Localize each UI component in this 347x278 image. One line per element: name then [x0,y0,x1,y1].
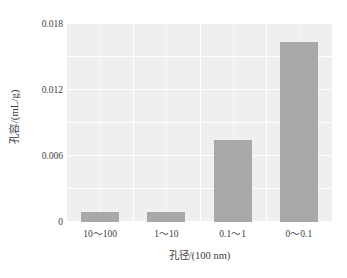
y-axis-tick-label: 0 [18,217,63,227]
gridline-vertical [133,24,134,222]
y-axis-tick-label: 0.006 [18,151,63,161]
gridline-vertical-minor [100,24,101,222]
bar [214,140,252,222]
x-axis-tick-label: 1～10 [133,228,199,240]
bar [147,212,185,222]
y-axis-tick-labels: 0.0180.0120.0060 [18,0,63,278]
bar [280,42,318,222]
gridline-vertical-minor [166,24,167,222]
x-axis-tick-label: 0～0.1 [266,228,332,240]
x-axis-tick-label: 0.1～1 [200,228,266,240]
plot-area [67,24,332,222]
gridline-vertical [266,24,267,222]
x-axis-tick-labels: 10～1001～100.1～10～0.1 [67,228,332,244]
y-axis-tick-label: 0.018 [18,19,63,29]
y-axis-tick-label: 0.012 [18,85,63,95]
chart-figure: 孔容/(mL/g) 0.0180.0120.0060 10～1001～100.1… [0,0,347,278]
bar [81,212,119,222]
x-axis-tick-label: 10～100 [67,228,133,240]
gridline-vertical [200,24,201,222]
x-axis-title: 孔径/(100 nm) [67,247,332,262]
